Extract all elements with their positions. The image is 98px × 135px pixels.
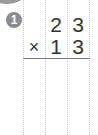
- problem-number-badge: 1: [6, 12, 22, 28]
- multiplier-digit-ones: 3: [67, 36, 89, 58]
- multiplicand-digit-hundreds: [23, 14, 45, 36]
- answer-rule: [23, 58, 90, 59]
- multiplicand-digit-ones: 3: [67, 14, 89, 36]
- multiply-operator: ×: [23, 36, 45, 58]
- corner-decoration: [0, 0, 24, 4]
- multiplier-digit-tens: 1: [45, 36, 67, 58]
- grid-line: [89, 0, 90, 135]
- multiplicand-digit-tens: 2: [45, 14, 67, 36]
